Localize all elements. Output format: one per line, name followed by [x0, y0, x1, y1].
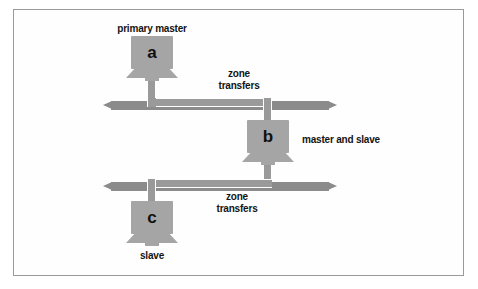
pipe-a-to-b-horizontal	[147, 98, 272, 107]
computer-primary-master[interactable]: a	[126, 36, 178, 84]
lower-bus-right-arrow	[328, 182, 337, 190]
zone-transfers-lower-line1: zone	[226, 191, 248, 202]
pipe-b-to-c-horizontal	[147, 179, 272, 188]
diagram-figure: a b c primary master master and slave sl…	[0, 0, 478, 289]
computer-slave[interactable]: c	[126, 201, 178, 249]
pipe-a-corner	[147, 98, 156, 107]
zone-transfers-lower-line2: transfers	[217, 203, 258, 214]
zone-transfers-upper-line1: zone	[228, 68, 250, 79]
computer-a-neck	[145, 77, 159, 81]
upper-bus-right-arrow	[328, 101, 337, 109]
label-zone-transfers-lower: zonetransfers	[197, 191, 277, 214]
label-slave: slave	[112, 250, 192, 262]
zone-transfers-upper-line2: transfers	[219, 80, 260, 91]
computer-c-neck	[145, 242, 159, 246]
label-zone-transfers-upper: zonetransfers	[199, 68, 279, 91]
computer-b-neck	[261, 161, 275, 165]
label-master-and-slave: master and slave	[302, 134, 432, 146]
computer-b-glyph: b	[242, 120, 294, 153]
label-primary-master: primary master	[92, 23, 212, 35]
computer-a-glyph: a	[126, 36, 178, 69]
diagram-frame: a b c primary master master and slave sl…	[13, 9, 464, 276]
computer-master-and-slave[interactable]: b	[242, 120, 294, 168]
computer-c-glyph: c	[126, 201, 178, 234]
